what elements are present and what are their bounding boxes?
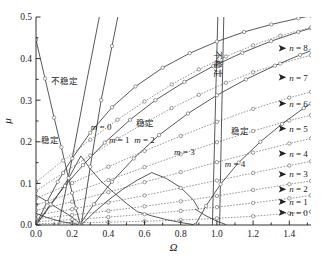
- m-mode-label: m = 3: [174, 147, 195, 157]
- data-point-marker: [70, 191, 73, 194]
- data-point-marker: [215, 217, 218, 220]
- data-point-marker: [143, 194, 146, 197]
- data-point-marker: [251, 171, 254, 174]
- n-mode-label: n = 0: [289, 208, 308, 218]
- unstable-region-label: 不稳定: [51, 76, 78, 86]
- data-point-marker: [116, 118, 119, 121]
- x-tick-label: 1.4: [283, 229, 295, 239]
- y-axis-title: μ: [1, 118, 13, 125]
- n-mode-label: n = 5: [289, 124, 308, 134]
- data-point-marker: [215, 194, 218, 197]
- data-point-marker: [215, 205, 218, 208]
- figure-container: 0.00.20.40.60.81.01.21.4 0.00.10.20.30.4…: [0, 0, 329, 272]
- data-point-marker: [224, 55, 227, 58]
- data-point-marker: [70, 200, 73, 203]
- x-tick-label: 0.8: [175, 229, 187, 239]
- data-point-marker: [179, 134, 182, 137]
- data-point-marker: [49, 203, 52, 206]
- data-point-marker: [143, 100, 146, 103]
- m-mode-label: m = 1: [109, 135, 130, 145]
- y-tick-label: 0.4: [20, 54, 32, 64]
- data-point-marker: [61, 171, 64, 174]
- data-point-marker: [279, 34, 282, 37]
- data-point-marker: [270, 39, 273, 42]
- data-point-marker: [215, 141, 218, 144]
- n-mode-label: n = 3: [289, 169, 308, 179]
- data-point-marker: [103, 141, 106, 144]
- n-mode-label: n = 2: [289, 184, 308, 194]
- data-point-marker: [251, 188, 254, 191]
- x-tick-label: 0.2: [66, 229, 78, 239]
- data-point-marker: [132, 157, 135, 160]
- m-mode-label: m = 4: [225, 159, 246, 169]
- data-point-marker: [215, 160, 218, 163]
- m-mode-label: m = 0: [91, 122, 112, 132]
- data-point-marker: [70, 181, 73, 184]
- data-point-marker: [45, 200, 48, 203]
- x-tick-label: 1.2: [247, 229, 259, 239]
- data-point-marker: [43, 77, 46, 80]
- stability-diagram-chart: 0.00.20.40.60.81.01.21.4 0.00.10.20.30.4…: [0, 0, 329, 272]
- data-point-marker: [188, 51, 191, 54]
- data-point-marker: [154, 99, 157, 102]
- data-point-marker: [251, 44, 254, 47]
- y-tick-label: 0.0: [20, 220, 32, 230]
- data-point-marker: [74, 207, 77, 210]
- data-point-marker: [242, 30, 245, 33]
- stable-region-label: 稳定: [231, 126, 249, 136]
- data-point-marker: [99, 99, 102, 102]
- n-mode-label: n = 1: [289, 197, 308, 207]
- data-point-marker: [60, 146, 63, 149]
- data-point-marker: [186, 112, 189, 115]
- data-point-marker: [110, 180, 113, 183]
- data-point-marker: [244, 78, 247, 81]
- y-tick-label: 0.1: [20, 179, 32, 189]
- data-point-marker: [107, 215, 110, 218]
- x-tick-label: 0.4: [102, 229, 114, 239]
- data-point-marker: [70, 207, 73, 210]
- data-point-marker: [128, 118, 131, 121]
- data-point-marker: [273, 64, 276, 67]
- data-point-marker: [183, 80, 186, 83]
- data-point-marker: [134, 85, 137, 88]
- data-point-marker: [89, 138, 92, 141]
- data-point-marker: [251, 215, 254, 218]
- data-point-marker: [157, 133, 160, 136]
- n-mode-label: n = 7: [289, 73, 308, 83]
- data-point-marker: [288, 142, 291, 145]
- data-point-marker: [280, 122, 283, 125]
- y-tick-label: 0.5: [20, 12, 32, 22]
- data-point-marker: [67, 176, 70, 179]
- data-point-marker: [107, 201, 110, 204]
- data-point-marker: [110, 44, 113, 47]
- data-point-marker: [81, 163, 84, 166]
- data-point-marker: [204, 204, 207, 207]
- data-point-marker: [215, 120, 218, 123]
- data-point-marker: [92, 203, 95, 206]
- data-point-marker: [170, 106, 173, 109]
- data-point-marker: [197, 68, 200, 71]
- x-tick-label: 0.6: [139, 229, 151, 239]
- data-point-marker: [107, 209, 110, 212]
- m-mode-label: m = 2: [134, 135, 155, 145]
- data-point-marker: [179, 170, 182, 173]
- data-point-marker: [298, 53, 301, 56]
- y-tick-label: 0.2: [20, 137, 32, 147]
- x-axis-title: Ω: [170, 241, 178, 253]
- data-point-marker: [215, 40, 218, 43]
- data-point-marker: [52, 116, 55, 119]
- data-point-marker: [297, 17, 300, 20]
- data-point-marker: [143, 149, 146, 152]
- data-point-marker: [251, 129, 254, 132]
- data-point-marker: [107, 190, 110, 193]
- data-point-marker: [107, 165, 110, 168]
- data-point-marker: [63, 184, 66, 187]
- data-point-marker: [161, 66, 164, 69]
- data-point-marker: [143, 205, 146, 208]
- n-mode-label: n = 4: [289, 149, 308, 159]
- data-point-marker: [251, 151, 254, 154]
- data-point-marker: [288, 119, 291, 122]
- data-point-marker: [259, 140, 262, 143]
- y-tick-label: 0.3: [20, 96, 32, 106]
- data-point-marker: [70, 213, 73, 216]
